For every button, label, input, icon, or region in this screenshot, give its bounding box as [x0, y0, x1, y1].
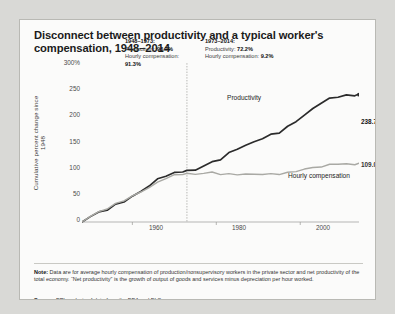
plot-region: Cumulative percent change since 1948 300… — [20, 62, 376, 258]
annotation-1-compensation-label: Hourly compensation: — [125, 53, 179, 59]
source-body: EPI analysis of data from the BEA and BL… — [54, 297, 161, 300]
note-text: Note: Data are for average hourly compen… — [34, 269, 361, 284]
chart-panel: Disconnect between productivity and a ty… — [19, 19, 376, 300]
source-text: Source: EPI analysis of data from the BE… — [34, 297, 361, 300]
end-label-compensation: 109.0% — [361, 161, 376, 168]
annotation-2-productivity-label: Productivity: — [205, 46, 235, 52]
chart-svg — [82, 62, 359, 232]
y-tick-300: 300% — [40, 59, 80, 66]
annotation-2-compensation: Hourly compensation: 9.2% — [205, 53, 283, 61]
annotation-1-productivity-label: Productivity: — [125, 46, 155, 52]
end-label-productivity: 238.7% — [361, 118, 376, 125]
annotation-2-header: 1973–2014: — [205, 38, 283, 46]
annotation-2-productivity-value: 72.2% — [237, 46, 253, 52]
chart-page: Disconnect between productivity and a ty… — [0, 0, 395, 314]
x-tick-1960: 1960 — [149, 224, 163, 231]
footer-divider — [34, 263, 363, 264]
y-tick-200: 200 — [40, 111, 80, 118]
annotation-1-compensation: Hourly compensation: 91.3% — [125, 53, 195, 68]
annotation-1948-1973: 1948–1973: Productivity: 96.7% Hourly co… — [125, 38, 195, 68]
annotation-1-productivity: Productivity: 96.7% — [125, 46, 195, 54]
annotation-1-compensation-value: 91.3% — [125, 61, 141, 67]
y-tick-150: 150 — [40, 138, 80, 145]
y-axis-ticks: 300% 250 200 150 100 50 0 — [38, 62, 80, 222]
annotation-2-compensation-value: 9.2% — [261, 53, 274, 59]
annotation-2-compensation-label: Hourly compensation: — [205, 53, 259, 59]
annotation-1973-2014: 1973–2014: Productivity: 72.2% Hourly co… — [205, 38, 283, 61]
x-tick-1980: 1980 — [232, 224, 246, 231]
annotation-2-productivity: Productivity: 72.2% — [205, 46, 283, 54]
y-tick-250: 250 — [40, 85, 80, 92]
series-label-compensation: Hourly compensation — [288, 172, 350, 179]
y-tick-100: 100 — [40, 164, 80, 171]
y-tick-0: 0 — [40, 216, 80, 223]
x-tick-2000: 2000 — [316, 224, 330, 231]
note-body: Data are for average hourly compensation… — [34, 269, 359, 282]
annotation-1-header: 1948–1973: — [125, 38, 195, 46]
line-chart-plot — [82, 62, 359, 222]
chart-title: Disconnect between productivity and a ty… — [34, 29, 356, 54]
note-label: Note: — [34, 269, 48, 275]
annotation-1-productivity-value: 96.7% — [157, 46, 173, 52]
series-label-productivity: Productivity — [227, 94, 261, 101]
source-label: Source: — [34, 297, 54, 300]
y-tick-50: 50 — [40, 190, 80, 197]
